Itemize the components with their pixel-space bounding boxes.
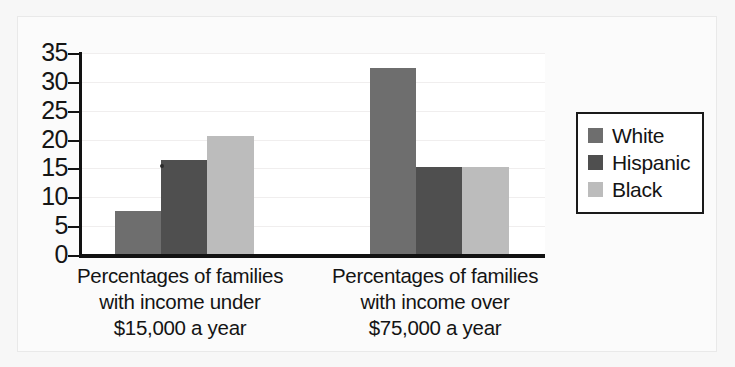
legend-item-hispanic: Hispanic <box>588 149 692 176</box>
scan-speck <box>160 164 164 168</box>
category-label-line: with income under <box>55 289 305 315</box>
y-tick-label: 30 <box>20 69 68 94</box>
category-label-over-75000: Percentages of families with income over… <box>310 263 560 341</box>
category-label-line: Percentages of families <box>55 263 305 289</box>
legend-swatch-icon <box>588 128 603 143</box>
y-tick-label: 15 <box>20 155 68 180</box>
category-label-line: Percentages of families <box>310 263 560 289</box>
category-label-line: with income over <box>310 289 560 315</box>
legend-label: Black <box>612 179 662 200</box>
y-tick-mark <box>68 111 80 113</box>
bar-hispanic-under-15000 <box>161 160 207 255</box>
legend-item-white: White <box>588 122 692 149</box>
y-tick-mark <box>68 255 80 257</box>
legend-label: Hispanic <box>612 152 690 173</box>
category-label-under-15000: Percentages of families with income unde… <box>55 263 305 341</box>
bar-white-under-15000 <box>115 211 161 255</box>
x-axis-line <box>79 254 545 258</box>
bar-black-under-15000 <box>207 136 254 255</box>
y-tick-label: 10 <box>20 184 68 209</box>
y-tick-mark <box>68 53 80 55</box>
y-tick-label: 20 <box>20 127 68 152</box>
legend: White Hispanic Black <box>576 112 704 214</box>
bar-group-over-75000 <box>370 53 509 255</box>
y-tick-mark <box>68 226 80 228</box>
y-tick-mark <box>68 140 80 142</box>
legend-label: White <box>612 125 664 146</box>
bar-black-over-75000 <box>462 167 509 255</box>
chart-figure: 35 30 25 20 15 10 5 0 Percentages of fam… <box>0 0 735 367</box>
bar-white-over-75000 <box>370 68 416 255</box>
y-tick-mark <box>68 82 80 84</box>
y-tick-label: 35 <box>20 40 68 65</box>
bar-hispanic-over-75000 <box>416 167 462 255</box>
bar-group-under-15000 <box>115 53 254 255</box>
plot-area <box>80 53 545 255</box>
y-tick-label: 25 <box>20 98 68 123</box>
category-label-line: $75,000 a year <box>310 315 560 341</box>
category-label-line: $15,000 a year <box>55 315 305 341</box>
y-tick-mark <box>68 168 80 170</box>
legend-swatch-icon <box>588 155 603 170</box>
legend-item-black: Black <box>588 176 692 203</box>
y-tick-mark <box>68 197 80 199</box>
legend-swatch-icon <box>588 182 603 197</box>
y-tick-label: 5 <box>20 213 68 238</box>
